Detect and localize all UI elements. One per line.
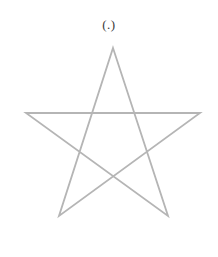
star-drawing-canvas xyxy=(0,38,218,234)
pentagram-svg xyxy=(0,38,218,234)
figure-caption: (.) xyxy=(0,18,218,32)
figure-container: (.) xyxy=(0,0,218,257)
pentagram-icon xyxy=(26,48,200,216)
